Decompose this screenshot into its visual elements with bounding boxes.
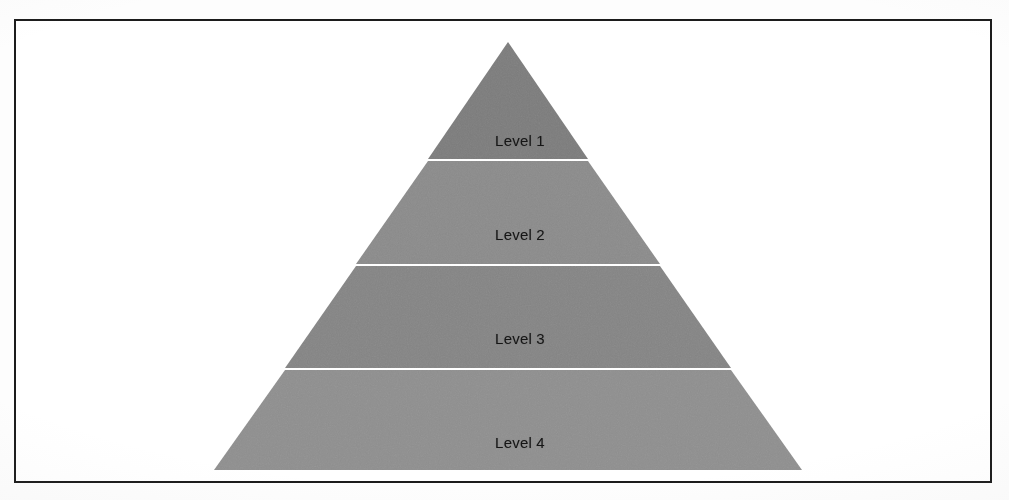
pyramid-level-4-label: Level 4	[495, 434, 545, 451]
pyramid-level-1-label: Level 1	[495, 132, 545, 149]
pyramid-level-3-label: Level 3	[495, 330, 545, 347]
pyramid-shape	[214, 42, 802, 470]
figure-border: Level 1 Level 2 Level 3 Level 4	[14, 19, 992, 483]
pyramid-diagram: Level 1 Level 2 Level 3 Level 4	[214, 42, 802, 470]
scanned-page: Level 1 Level 2 Level 3 Level 4	[0, 0, 1009, 500]
pyramid-level-2-label: Level 2	[495, 226, 545, 243]
